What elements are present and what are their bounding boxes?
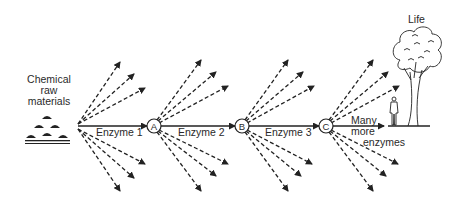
tree-icon (393, 27, 441, 126)
many-more-line: enzymes (351, 137, 405, 148)
many-more-enzymes-label: Many more enzymes (351, 115, 405, 148)
raw-materials-icon (25, 116, 70, 144)
source-label-line: materials (18, 96, 80, 107)
enzyme-1-label: Enzyme 1 (96, 127, 143, 138)
node-a-label: A (150, 121, 158, 132)
node-c-label: C (322, 121, 330, 132)
node-b-label: B (238, 121, 246, 132)
enzyme-3-label: Enzyme 3 (265, 127, 312, 138)
enzyme-2-label: Enzyme 2 (178, 127, 225, 138)
life-label: Life (408, 14, 425, 25)
source-label: Chemical raw materials (18, 74, 80, 107)
